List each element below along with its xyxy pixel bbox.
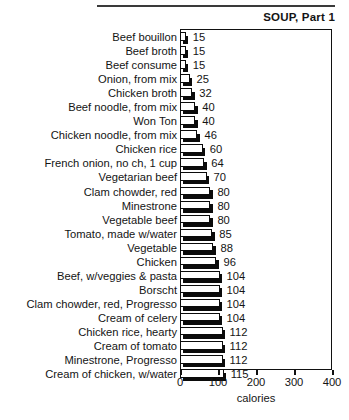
bar-row: Tomato, made w/water85 (0, 228, 349, 242)
x-axis-tick (180, 370, 182, 375)
bar-row: Beef noodle, from mix40 (0, 101, 349, 115)
bar-row: French onion, no ch, 1 cup64 (0, 157, 349, 171)
bar (180, 299, 220, 310)
bar (180, 102, 195, 113)
bar-category-label: Chicken (137, 256, 177, 269)
bar-value-label: 15 (193, 45, 205, 58)
chart-title: SOUP, Part 1 (263, 11, 335, 23)
x-axis-tick-label: 100 (209, 376, 228, 388)
x-axis-tick-label: 300 (285, 376, 304, 388)
bar-face (180, 32, 186, 41)
bar-face (180, 60, 186, 69)
bar (180, 32, 186, 43)
bar-face (180, 285, 220, 294)
bar (180, 144, 203, 155)
bar-face (180, 158, 204, 167)
bar-face (180, 341, 223, 350)
bar-category-label: Beef noodle, from mix (68, 101, 177, 114)
bar-row: Vegetable beef80 (0, 214, 349, 228)
bar-face (180, 187, 210, 196)
bar (180, 229, 212, 240)
bar-face (180, 116, 195, 125)
x-axis-title: calories (180, 392, 332, 404)
bar-row: Clam chowder, red80 (0, 186, 349, 200)
bar-face (180, 144, 203, 153)
bar (180, 271, 220, 282)
bar-row: Vegetable88 (0, 242, 349, 256)
bar-category-label: Won Ton (133, 115, 177, 128)
bar-value-label: 60 (210, 143, 222, 156)
bar-row: Onion, from mix25 (0, 73, 349, 87)
bar-value-label: 25 (197, 73, 209, 86)
bar-row: Borscht104 (0, 284, 349, 298)
bar (180, 313, 220, 324)
bar-value-label: 112 (230, 354, 248, 367)
bar-value-label: 112 (230, 326, 248, 339)
bar (180, 257, 216, 268)
bar (180, 158, 204, 169)
bar-row: Minestrone80 (0, 200, 349, 214)
bar-value-label: 88 (220, 242, 232, 255)
bar (180, 285, 220, 296)
bar-category-label: French onion, no ch, 1 cup (45, 157, 177, 170)
bar-face (180, 271, 220, 280)
bar-category-label: Onion, from mix (98, 73, 177, 86)
bar (180, 116, 195, 127)
bar (180, 201, 210, 212)
bar-category-label: Borscht (139, 284, 177, 297)
bar (180, 215, 210, 226)
bar (180, 74, 190, 85)
bar-category-label: Chicken noodle, from mix (51, 129, 177, 142)
page-header-rule (97, 5, 335, 7)
bar-value-label: 80 (217, 200, 229, 213)
bar-value-label: 96 (223, 256, 235, 269)
bar-value-label: 40 (202, 115, 214, 128)
bar-face (180, 74, 190, 83)
x-axis-tick (294, 370, 296, 375)
bar-category-label: Tomato, made w/water (64, 228, 177, 241)
bar-value-label: 15 (193, 59, 205, 72)
bar-category-label: Beef broth (125, 45, 177, 58)
bar-category-label: Clam chowder, red, Progresso (27, 298, 177, 311)
x-axis-tick (256, 370, 258, 375)
bar-value-label: 64 (211, 157, 223, 170)
bar-row: Chicken rice, hearty112 (0, 326, 349, 340)
x-axis-tick-label: 200 (247, 376, 266, 388)
bar (180, 243, 213, 254)
bar-face (180, 313, 220, 322)
bar (180, 327, 223, 338)
bar-value-label: 112 (230, 340, 248, 353)
bar (180, 60, 186, 71)
bar-face (180, 130, 197, 139)
bar-value-label: 40 (202, 101, 214, 114)
bar-category-label: Minestrone, Progresso (64, 354, 177, 367)
bar-row: Chicken noodle, from mix46 (0, 129, 349, 143)
bar-category-label: Beef, w/veggies & pasta (57, 270, 177, 283)
bar-value-label: 80 (217, 186, 229, 199)
bar-value-label: 104 (227, 284, 246, 297)
bar-value-label: 15 (193, 31, 205, 44)
bar-row: Cream of tomato112 (0, 340, 349, 354)
bar-value-label: 46 (204, 129, 216, 142)
bar-face (180, 257, 216, 266)
bar-value-label: 80 (217, 214, 229, 227)
bar-row: Chicken broth32 (0, 87, 349, 101)
bar-row: Beef bouillon15 (0, 31, 349, 45)
bar-category-label: Chicken rice (115, 143, 177, 156)
bar-category-label: Minestrone (122, 200, 177, 213)
bar-face (180, 46, 186, 55)
bar-face (180, 88, 192, 97)
bar-row: Beef consume15 (0, 59, 349, 73)
bar-category-label: Clam chowder, red (84, 186, 177, 199)
bar-category-label: Beef consume (105, 59, 177, 72)
bar-category-label: Vegetable (127, 242, 177, 255)
bar-face (180, 215, 210, 224)
bar (180, 355, 223, 366)
x-axis-tick (332, 370, 334, 375)
bar-face (180, 299, 220, 308)
x-axis: 0100200300400 (180, 370, 332, 371)
bar-row: Won Ton40 (0, 115, 349, 129)
bar-category-label: Vegetable beef (102, 214, 177, 227)
x-axis-tick-label: 400 (323, 376, 342, 388)
bar-face (180, 172, 207, 181)
